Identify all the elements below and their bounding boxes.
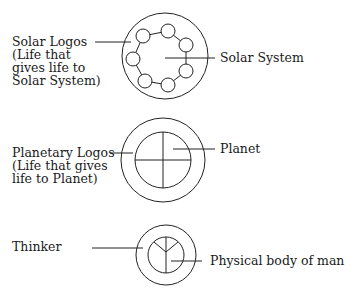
thinker-label: Thinker [12, 239, 61, 254]
planetary-logos-label: Planetary Logos (Life that gives life to… [12, 145, 119, 186]
solar-logos-label: Solar Logos (Life that gives life to Sol… [12, 34, 101, 88]
planet-circle [138, 74, 152, 88]
planet-circle [179, 38, 193, 52]
human-figure [92, 225, 202, 285]
solar-system-label: Solar System [220, 50, 304, 65]
body-left-branch [154, 242, 166, 252]
logos-diagram: Solar Logos (Life that gives life to Sol… [0, 0, 356, 302]
planet-circle [161, 24, 175, 38]
planet-circle [136, 29, 150, 43]
physical-body-label: Physical body of man [210, 253, 344, 268]
planet-figure [110, 118, 215, 202]
planet-circle [179, 64, 193, 78]
planet-circle [126, 52, 140, 66]
planet-circle [161, 78, 175, 92]
solar-system-figure [95, 13, 215, 99]
body-right-branch [166, 242, 178, 252]
planet-label: Planet [220, 141, 260, 156]
